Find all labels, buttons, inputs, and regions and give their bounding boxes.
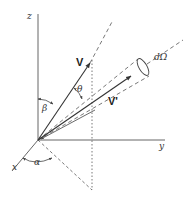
y-axis-label: y — [158, 141, 165, 151]
v-projection-xy — [38, 140, 92, 190]
vector-v — [38, 63, 90, 140]
z-axis-label: z — [26, 11, 32, 21]
x-axis-label: x — [12, 162, 17, 172]
cone-edge-lower — [38, 76, 149, 140]
vector-v-prime-label: V' — [108, 95, 118, 107]
vector-v-extension — [90, 20, 113, 63]
theta-label: θ — [77, 84, 83, 94]
vector-v-prime — [38, 76, 131, 140]
vector-diagram: z y x V V' β θ α dΩ — [0, 0, 192, 200]
vector-v-label: V — [76, 56, 84, 68]
alpha-label: α — [34, 157, 40, 167]
beta-label: β — [41, 103, 47, 113]
cone-edge-upper — [38, 59, 138, 140]
solid-angle-label: dΩ — [154, 52, 168, 62]
solid-angle-ellipse — [135, 57, 151, 77]
